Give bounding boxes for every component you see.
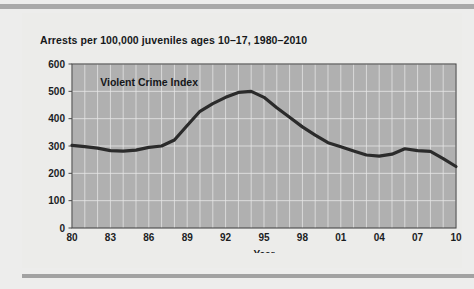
- x-tick-label: 80: [66, 232, 78, 243]
- y-axis-tick-labels: 0100200300400500600: [48, 59, 72, 234]
- x-tick-label: 01: [335, 232, 347, 243]
- y-tick-label: 100: [48, 195, 65, 206]
- page-title: Arrests per 100,000 juveniles ages 10–17…: [40, 34, 307, 46]
- y-tick-label: 200: [48, 168, 65, 179]
- bottom-divider-rule: [22, 274, 474, 278]
- y-tick-label: 600: [48, 59, 65, 70]
- x-tick-label: 86: [143, 232, 155, 243]
- y-tick-label: 400: [48, 113, 65, 124]
- series-annotation-label: Violent Crime Index: [100, 76, 198, 88]
- x-tick-label: 10: [450, 232, 462, 243]
- x-tick-label: 83: [105, 232, 117, 243]
- x-tick-label: 98: [297, 232, 309, 243]
- y-tick-label: 500: [48, 86, 65, 97]
- x-axis-title: Year: [253, 249, 274, 253]
- x-tick-label: 89: [182, 232, 194, 243]
- line-chart: 0100200300400500600 80838689929598010407…: [22, 48, 462, 253]
- y-tick-label: 0: [59, 223, 65, 234]
- x-tick-label: 07: [412, 232, 424, 243]
- y-tick-label: 300: [48, 141, 65, 152]
- top-divider-rule: [0, 4, 474, 9]
- x-tick-label: 04: [374, 232, 386, 243]
- x-tick-label: 92: [220, 232, 232, 243]
- x-tick-label: 95: [258, 232, 270, 243]
- figure-page: Arrests per 100,000 juveniles ages 10–17…: [0, 0, 474, 289]
- x-axis-tick-labels: 8083868992959801040710: [66, 232, 462, 243]
- chart-container: 0100200300400500600 80838689929598010407…: [22, 48, 462, 253]
